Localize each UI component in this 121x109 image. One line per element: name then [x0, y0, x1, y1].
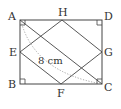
length-label: 8 cm	[38, 55, 63, 66]
geometry-diagram: A H D E G B F C 8 cm	[0, 0, 121, 109]
label-h: H	[58, 6, 68, 19]
right-angle-d	[97, 20, 102, 25]
label-d: D	[104, 10, 113, 23]
label-b: B	[8, 78, 16, 91]
label-e: E	[9, 46, 17, 59]
right-angle-b	[20, 79, 25, 84]
label-a: A	[7, 10, 17, 23]
label-g: G	[104, 46, 113, 59]
diagonal-ac	[20, 20, 102, 84]
label-f: F	[57, 87, 65, 100]
label-c: C	[104, 81, 112, 94]
